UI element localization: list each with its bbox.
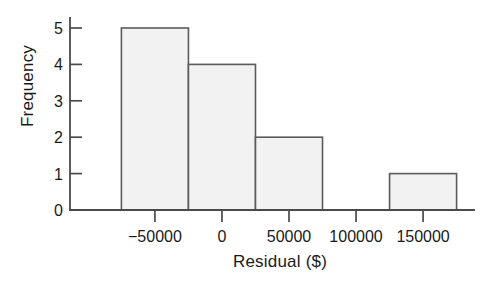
y-axis-tick-label: 1: [54, 166, 63, 183]
y-axis-tick-label: 4: [54, 56, 63, 73]
x-axis-tick-label: 0: [218, 228, 227, 245]
histogram-chart: Frequency Residual ($) 012345−5000005000…: [0, 0, 490, 293]
y-axis-tick-label: 2: [54, 129, 63, 146]
histogram-bar: [188, 64, 255, 210]
histogram-bar: [255, 137, 322, 210]
bars-layer: [121, 28, 456, 210]
x-axis-tick-label: 150000: [396, 228, 449, 245]
y-axis-tick-label: 0: [54, 202, 63, 219]
histogram-bar: [390, 174, 457, 210]
histogram-bar: [121, 28, 188, 210]
y-axis-tick-label: 5: [54, 20, 63, 37]
y-axis-tick-label: 3: [54, 93, 63, 110]
x-axis-tick-label: −50000: [128, 228, 182, 245]
x-axis-tick-label: 50000: [267, 228, 312, 245]
x-axis-tick-label: 100000: [329, 228, 382, 245]
plot-area: 012345−50000050000100000150000: [0, 0, 490, 293]
